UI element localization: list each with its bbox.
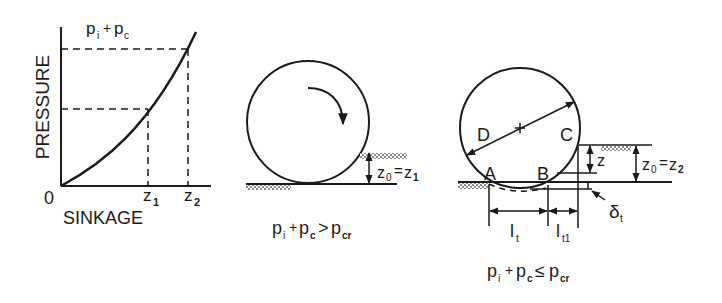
pressure-curve bbox=[61, 32, 196, 186]
origin-label: 0 bbox=[44, 188, 54, 208]
svg-text:δ: δ bbox=[609, 201, 620, 222]
svg-text:p: p bbox=[86, 19, 95, 38]
svg-text:1: 1 bbox=[153, 196, 159, 208]
svg-text:+: + bbox=[103, 20, 111, 36]
condition-subcritical: p i + p c ≤ p cr bbox=[487, 261, 570, 284]
l-t1-label: l t1 bbox=[556, 221, 571, 244]
soil-hatch-upper bbox=[601, 146, 631, 151]
soil-hatch-upper bbox=[360, 153, 407, 159]
svg-text:p: p bbox=[487, 261, 497, 281]
svg-text:p: p bbox=[272, 218, 282, 238]
delta-pointer bbox=[592, 191, 605, 200]
pressure-sinkage-graph: PRESSURE SINKAGE 0 p i + p c z 1 z 2 bbox=[32, 19, 211, 228]
svg-text:2: 2 bbox=[678, 164, 684, 175]
svg-text:+: + bbox=[289, 219, 297, 235]
svg-text:z: z bbox=[377, 164, 385, 181]
wheel-diagram-supercritical: z 0 = z 1 p i + p c > p cr bbox=[246, 61, 419, 241]
svg-text:cr: cr bbox=[560, 273, 570, 284]
svg-text:l: l bbox=[556, 221, 560, 241]
figure-canvas: PRESSURE SINKAGE 0 p i + p c z 1 z 2 z 0… bbox=[0, 0, 722, 303]
sinkage-label: z 0 = z 1 bbox=[377, 162, 419, 183]
svg-text:l: l bbox=[510, 221, 514, 241]
wheel-diagram-subcritical: D C A B z z 0 = z 2 δ t l t l t1 p i + p… bbox=[458, 68, 684, 284]
svg-text:p: p bbox=[516, 261, 526, 281]
svg-text:p: p bbox=[114, 19, 123, 38]
label-A: A bbox=[484, 164, 496, 184]
x-axis-label: SINKAGE bbox=[63, 208, 143, 228]
svg-text:p: p bbox=[549, 261, 559, 281]
z1-tick-label: z 1 bbox=[143, 186, 159, 208]
soil-hatch-lower bbox=[246, 185, 291, 190]
svg-text:0: 0 bbox=[386, 172, 392, 183]
svg-text:1: 1 bbox=[413, 172, 419, 183]
wheel bbox=[247, 61, 369, 183]
label-B: B bbox=[537, 164, 549, 184]
svg-text:i: i bbox=[498, 273, 500, 284]
y-axis-label: PRESSURE bbox=[32, 55, 53, 160]
svg-text:p: p bbox=[299, 218, 309, 238]
svg-text:cr: cr bbox=[342, 230, 352, 241]
svg-text:p: p bbox=[331, 218, 341, 238]
svg-text:2: 2 bbox=[194, 196, 200, 208]
svg-text:t: t bbox=[516, 233, 519, 244]
svg-text:+: + bbox=[505, 262, 513, 278]
svg-text:>: > bbox=[318, 218, 329, 238]
condition-supercritical: p i + p c > p cr bbox=[272, 218, 352, 241]
label-z: z bbox=[597, 152, 605, 169]
sinkage-label: z 0 = z 2 bbox=[642, 154, 684, 175]
svg-text:z: z bbox=[184, 186, 193, 205]
svg-text:t1: t1 bbox=[562, 233, 571, 244]
svg-text:z: z bbox=[404, 164, 412, 181]
delta-t-label: δ t bbox=[609, 201, 623, 224]
svg-text:t: t bbox=[620, 213, 623, 224]
svg-text:0: 0 bbox=[651, 164, 657, 175]
svg-text:z: z bbox=[143, 186, 152, 205]
svg-text:c: c bbox=[527, 273, 533, 284]
svg-text:≤: ≤ bbox=[535, 261, 545, 281]
svg-text:i: i bbox=[97, 30, 99, 41]
rotation-arrow-icon bbox=[308, 88, 343, 124]
svg-text:i: i bbox=[283, 230, 285, 241]
l-t-label: l t bbox=[510, 221, 519, 244]
z2-tick-label: z 2 bbox=[184, 186, 200, 208]
svg-text:z: z bbox=[669, 156, 677, 173]
label-D: D bbox=[477, 125, 490, 145]
svg-text:=: = bbox=[394, 162, 403, 179]
svg-text:c: c bbox=[124, 30, 129, 41]
svg-text:c: c bbox=[310, 230, 316, 241]
label-C: C bbox=[560, 125, 573, 145]
svg-text:z: z bbox=[642, 156, 650, 173]
svg-text:=: = bbox=[659, 154, 668, 171]
curve-label: p i + p c bbox=[86, 19, 129, 41]
